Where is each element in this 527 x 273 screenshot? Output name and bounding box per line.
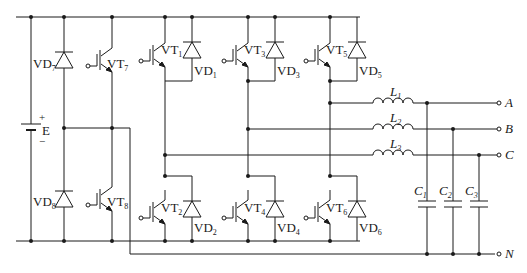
capacitor-c3-icon [470,155,488,254]
terminal-c [497,153,501,157]
label-vt5: VT5 [326,43,347,59]
label-c1: C1 [414,184,427,200]
label-vd3: VD3 [277,64,300,80]
terminal-c-label: C [505,148,514,161]
label-l2: L2 [390,111,401,127]
label-vt7: VT7 [107,57,128,73]
label-l3: L3 [390,137,401,153]
label-vt3: VT3 [244,43,265,59]
terminal-b-label: B [505,122,513,135]
label-vt8: VT8 [107,195,128,211]
label-vd7: VD7 [33,57,56,73]
battery-minus-label: − [39,136,45,147]
battery-plus-label: + [39,112,45,123]
label-c3: C3 [465,184,478,200]
label-vd2: VD2 [194,221,217,237]
label-vd4: VD4 [277,221,300,237]
label-vd6: VD6 [359,221,382,237]
label-vt4: VT4 [244,201,265,217]
diode-vd7-icon [55,52,73,68]
label-vd1: VD1 [194,64,217,80]
terminal-n [497,252,501,256]
label-vt6: VT6 [326,201,347,217]
diode-vd8-icon [55,191,73,207]
label-vd5: VD5 [359,64,382,80]
terminal-n-label: N [505,247,514,260]
terminal-a [497,101,501,105]
label-c2: C2 [439,184,452,200]
label-l1: L1 [390,85,401,101]
circuit-schematic [0,0,527,273]
label-vd8: VD8 [33,195,56,211]
circuit-diagram: + E − VD7 VD8 VT7 VT8 VT1 VT3 VT5 VD1 VD… [0,0,527,273]
terminal-b [497,127,501,131]
capacitor-c1-icon [418,103,436,254]
terminal-a-label: A [505,96,513,109]
label-vt2: VT2 [161,201,182,217]
label-vt1: VT1 [161,43,182,59]
